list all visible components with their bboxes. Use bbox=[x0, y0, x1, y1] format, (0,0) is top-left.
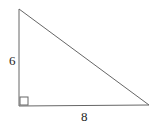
right-angle-marker bbox=[20, 97, 28, 105]
right-triangle bbox=[19, 9, 149, 106]
horizontal-leg-label: 8 bbox=[81, 109, 88, 124]
triangle-diagram: 6 8 bbox=[0, 0, 157, 128]
vertical-leg-label: 6 bbox=[9, 53, 16, 68]
